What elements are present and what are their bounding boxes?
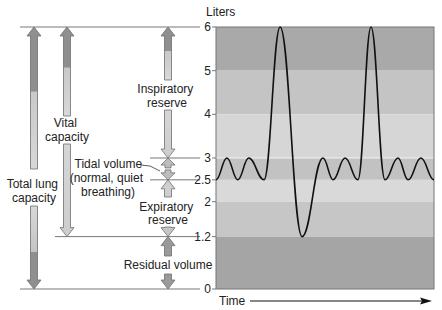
total-lung-capacity-arrow-up	[27, 27, 41, 169]
y-axis-title: Liters	[206, 5, 235, 19]
expiratory-reserve-arrow-up	[161, 180, 175, 197]
y-tick-label: 0	[204, 282, 211, 296]
y-tick-label: 3	[204, 151, 211, 165]
vital-capacity-label: Vital capacity	[45, 116, 89, 144]
residual-volume-label: Residual volume	[124, 258, 213, 272]
residual-volume-arrow-down	[161, 274, 175, 289]
total-lung-capacity-arrow-down	[27, 206, 41, 289]
band-2-2_5	[216, 180, 434, 202]
y-tick-label: 1.2	[194, 230, 211, 244]
band-0-1_2	[216, 237, 434, 289]
residual-volume-arrow-up	[161, 237, 175, 256]
band-1_2-2	[216, 202, 434, 237]
x-axis-title: Time	[219, 294, 246, 308]
tidal-volume-arrow-down	[161, 170, 175, 180]
band-4-5	[216, 71, 434, 115]
inspiratory-reserve-label: Inspiratory reserve	[137, 82, 196, 110]
band-5-6	[216, 27, 434, 71]
y-tick-label: 2.5	[194, 173, 211, 187]
y-tick-label: 5	[204, 64, 211, 78]
vital-capacity-arrow-up	[60, 27, 74, 116]
inspiratory-reserve-arrow-down	[161, 110, 175, 158]
tidal-volume-label: Tidal volume (normal, quiet breathing)	[70, 157, 147, 199]
y-tick-label: 2	[204, 195, 211, 209]
inspiratory-reserve-arrow-up	[161, 27, 175, 80]
tidal-volume-arrow-up	[161, 158, 175, 168]
y-tick-label: 4	[204, 107, 211, 121]
y-tick-label: 6	[204, 20, 211, 34]
total-lung-capacity-label: Total lung capacity	[7, 177, 62, 205]
band-3-4	[216, 114, 434, 158]
expiratory-reserve-arrow-down	[161, 227, 175, 237]
vital-capacity-arrow-down	[60, 144, 74, 237]
expiratory-reserve-label: Expiratory reserve	[139, 200, 196, 227]
lung-volume-diagram: 65432.521.20 Liters Time Total lung capa…	[0, 0, 442, 310]
